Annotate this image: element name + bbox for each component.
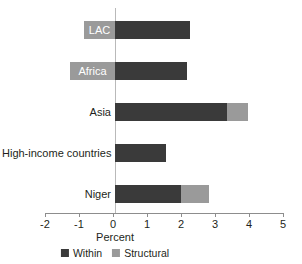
bar-row-niger: Niger — [0, 185, 302, 203]
chart-legend: Within Structural — [61, 247, 169, 259]
category-label-niger: Niger — [5, 185, 111, 203]
bar-chart: LAC Africa Asia High-income countries Ni… — [0, 0, 302, 264]
x-axis-label: Percent — [96, 231, 134, 243]
x-axis-tick-label: 5 — [271, 218, 295, 230]
x-axis-tick-label: 4 — [237, 218, 261, 230]
bar-segment-within — [115, 103, 227, 121]
legend-swatch-icon — [61, 249, 69, 257]
plot-area: LAC Africa Asia High-income countries Ni… — [0, 0, 302, 212]
bar-row-asia: Asia — [0, 103, 302, 121]
x-axis-tick — [147, 213, 148, 217]
bar-segment-within — [115, 21, 190, 39]
x-axis-tick — [79, 213, 80, 217]
bar-row-africa: Africa — [0, 62, 302, 80]
legend-item-structural: Structural — [112, 247, 169, 259]
bar-segment-within — [115, 62, 187, 80]
category-label-asia: Asia — [5, 103, 111, 121]
x-axis-tick-label: -1 — [67, 218, 91, 230]
x-axis-tick-label: 1 — [135, 218, 159, 230]
category-label-high-income-countries: High-income countries — [2, 144, 111, 162]
x-axis-tick-label: 0 — [101, 218, 125, 230]
legend-label-within: Within — [73, 247, 102, 259]
x-axis-tick — [249, 213, 250, 217]
x-axis-tick-label: 3 — [203, 218, 227, 230]
legend-swatch-icon — [112, 249, 120, 257]
x-axis-tick — [181, 213, 182, 217]
bar-segment-within — [115, 185, 181, 203]
x-axis-tick — [283, 213, 284, 217]
legend-label-structural: Structural — [124, 247, 169, 259]
bar-segment-structural — [181, 185, 209, 203]
x-axis-tick — [113, 213, 114, 217]
x-axis-tick — [215, 213, 216, 217]
x-axis-tick-label: -2 — [33, 218, 57, 230]
bar-segment-within — [115, 144, 166, 162]
x-axis-tick — [45, 213, 46, 217]
category-label-lac: LAC — [84, 21, 115, 39]
legend-item-within: Within — [61, 247, 102, 259]
category-label-africa: Africa — [70, 62, 115, 80]
bar-row-high-income-countries: High-income countries — [0, 144, 302, 162]
x-axis-tick-label: 2 — [169, 218, 193, 230]
bar-row-lac: LAC — [0, 21, 302, 39]
bar-segment-structural — [227, 103, 248, 121]
x-axis-line — [45, 213, 283, 214]
